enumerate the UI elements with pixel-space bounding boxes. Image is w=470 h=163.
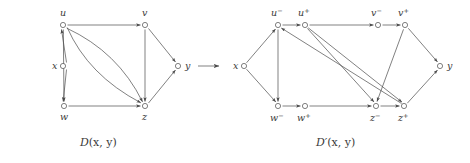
left-graph-edges bbox=[62, 25, 176, 106]
node-u-plus bbox=[302, 22, 307, 27]
node-label-v-minus: v− bbox=[371, 7, 382, 19]
node-label-w-plus-base: w bbox=[297, 112, 305, 123]
node-label-u: u bbox=[60, 7, 66, 18]
figure-canvas: x u v w z y D(x, y) bbox=[0, 0, 470, 163]
edge-x-u bbox=[62, 30, 67, 63]
right-caption: D′(x, y) bbox=[315, 136, 355, 149]
node-label-u-minus: u− bbox=[271, 7, 283, 19]
node-label-z-plus-sup: + bbox=[403, 112, 408, 120]
node-label-w-minus-sup: − bbox=[278, 112, 283, 120]
edge-vplus-zminus bbox=[377, 29, 404, 101]
edge-u-z-upper bbox=[67, 28, 143, 102]
right-graph-edges bbox=[247, 25, 438, 106]
right-graph-labels: x u− u+ v− v+ w− w+ bbox=[233, 7, 453, 124]
edge-z-y bbox=[149, 70, 176, 103]
node-label-y-right: y bbox=[446, 60, 453, 71]
node-label-w-minus: w− bbox=[270, 112, 284, 124]
node-w bbox=[61, 103, 66, 108]
node-w-minus bbox=[275, 103, 280, 108]
node-z-minus bbox=[373, 103, 378, 108]
left-graph: x u v w z y D(x, y) bbox=[52, 7, 191, 149]
graph-transformation-diagram: x u v w z y D(x, y) bbox=[0, 0, 470, 163]
node-label-x: x bbox=[52, 60, 58, 71]
edge-zplus-y bbox=[407, 70, 437, 103]
node-x bbox=[60, 63, 65, 68]
node-label-z: z bbox=[141, 111, 148, 122]
node-label-w-plus-sup: + bbox=[305, 112, 310, 120]
node-label-u-plus: u+ bbox=[298, 7, 310, 19]
right-graph: x u− u+ v− v+ w− w+ bbox=[233, 7, 453, 150]
node-z-plus bbox=[401, 103, 406, 108]
node-v-minus bbox=[375, 22, 380, 27]
right-graph-nodes bbox=[241, 22, 442, 108]
node-z bbox=[142, 103, 147, 108]
node-label-u-plus-sup: + bbox=[304, 7, 309, 15]
node-label-x-right: x bbox=[233, 60, 239, 71]
node-label-z-plus: z+ bbox=[397, 112, 408, 124]
edge-x-uminus bbox=[247, 29, 276, 63]
node-v-plus bbox=[402, 22, 407, 27]
node-label-v-plus-sup: + bbox=[403, 7, 408, 15]
right-caption-args: (x, y) bbox=[327, 136, 355, 149]
node-u bbox=[60, 22, 65, 27]
left-caption-symbol: D bbox=[79, 136, 89, 149]
node-label-v-minus-sup: − bbox=[376, 7, 381, 15]
left-caption-args: (x, y) bbox=[89, 136, 117, 149]
left-graph-nodes bbox=[60, 22, 180, 108]
edge-x-wminus bbox=[247, 69, 276, 102]
right-caption-symbol: D′ bbox=[315, 136, 328, 149]
edge-v-y bbox=[149, 29, 176, 63]
node-label-w-plus: w+ bbox=[297, 112, 311, 124]
edge-zplus-uminus bbox=[281, 28, 401, 104]
node-y bbox=[175, 63, 180, 68]
node-label-v-plus: v+ bbox=[398, 7, 409, 19]
left-caption: D(x, y) bbox=[79, 136, 117, 149]
node-v bbox=[142, 22, 147, 27]
node-y-right bbox=[437, 63, 442, 68]
edge-uplus-zplus bbox=[308, 28, 402, 102]
node-u-minus bbox=[275, 22, 280, 27]
node-label-z-minus-sup: − bbox=[375, 112, 380, 120]
node-label-w-minus-base: w bbox=[270, 112, 278, 123]
node-label-z-minus: z− bbox=[369, 112, 380, 124]
edge-u-z-lower bbox=[67, 28, 141, 103]
node-label-u-minus-sup: − bbox=[277, 7, 282, 15]
left-graph-labels: x u v w z y bbox=[52, 7, 191, 122]
node-w-plus bbox=[302, 103, 307, 108]
node-x-right bbox=[241, 63, 246, 68]
node-label-y: y bbox=[184, 60, 191, 71]
node-label-v: v bbox=[142, 7, 148, 18]
node-label-w: w bbox=[60, 111, 68, 122]
edge-vplus-y bbox=[408, 28, 437, 62]
